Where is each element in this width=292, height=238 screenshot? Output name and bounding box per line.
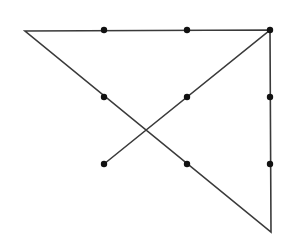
dot-r2c3	[267, 94, 273, 100]
nine-dot-diagram	[0, 0, 292, 238]
dot-r3c2	[184, 161, 190, 167]
dot-r2c1	[101, 94, 107, 100]
dot-r1c1	[101, 27, 107, 33]
dot-r3c1	[101, 161, 107, 167]
dot-r3c3	[267, 161, 273, 167]
dot-r2c2	[184, 94, 190, 100]
diagram-svg	[0, 0, 292, 238]
dot-r1c3	[267, 27, 273, 33]
dot-r1c2	[184, 27, 190, 33]
solution-path-line	[25, 30, 271, 232]
